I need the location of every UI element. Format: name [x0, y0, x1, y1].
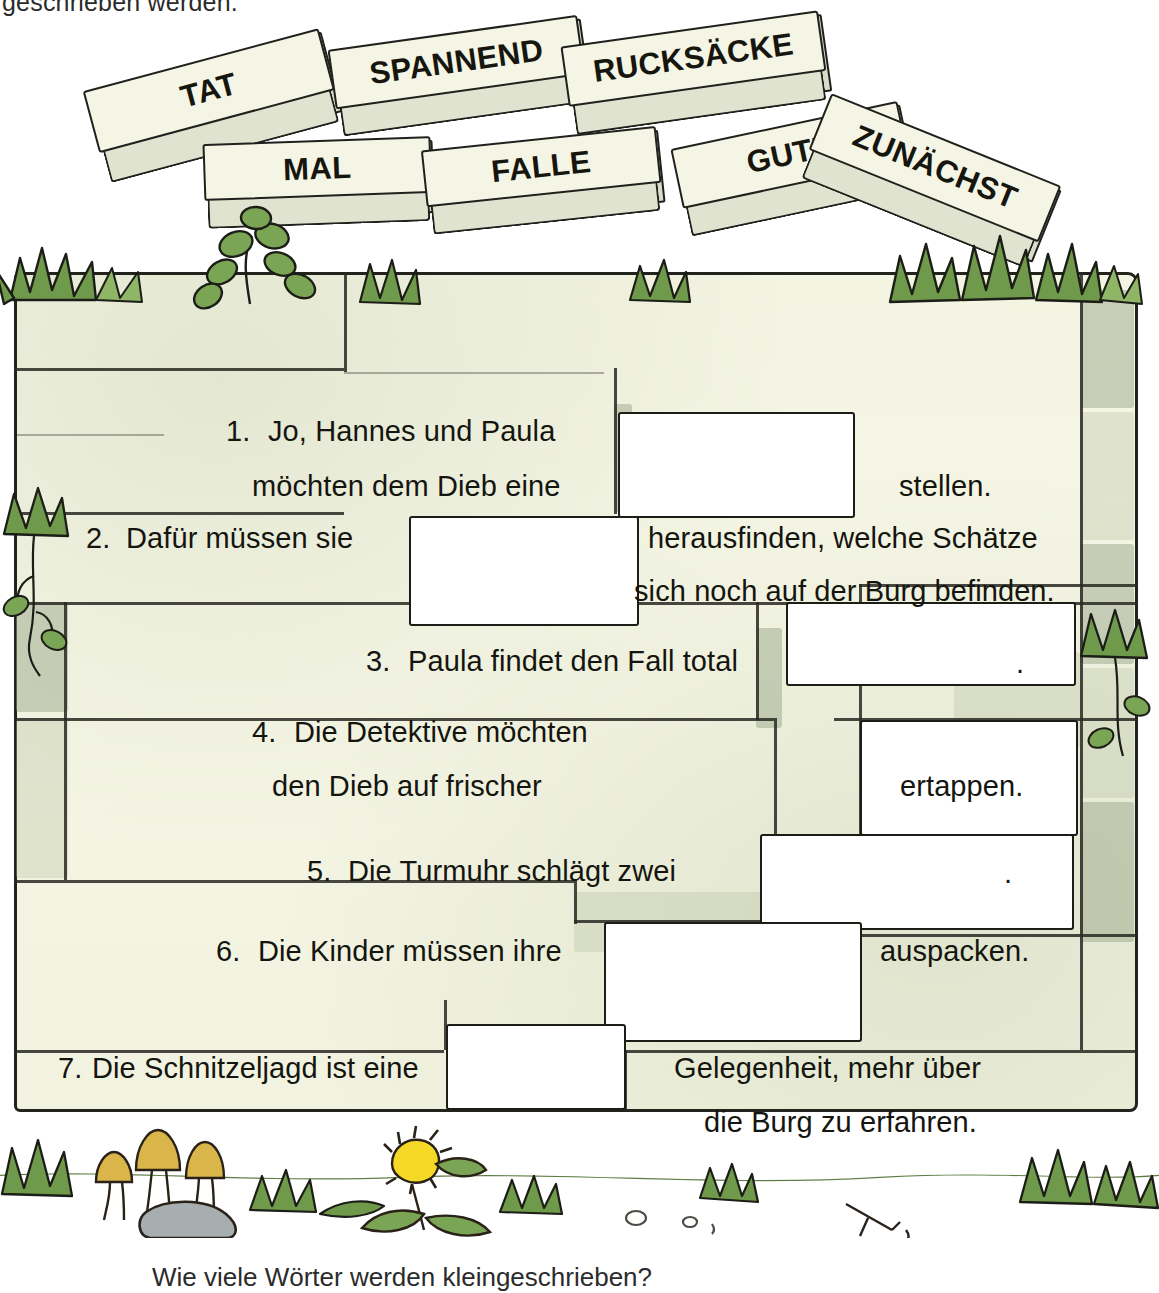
answer-gap-3[interactable]: [786, 602, 1076, 686]
wall-seam: [614, 368, 617, 514]
word-block-label: TAT: [177, 66, 241, 115]
right-side-ivy: [1075, 600, 1159, 780]
word-block-spannend[interactable]: SPANNEND: [328, 15, 591, 145]
answer-gap-7[interactable]: [446, 1024, 626, 1110]
sentence-7-number: 7.: [58, 1054, 82, 1083]
stone-shade: [1080, 802, 1134, 942]
sentence-5-line1-before: Die Turmuhr schlägt zwei: [348, 857, 676, 886]
sentence-7-line1-before: Die Schnitzeljagd ist eine: [92, 1054, 419, 1083]
word-block-label: MAL: [283, 149, 353, 187]
sentence-4-number: 4.: [252, 718, 276, 747]
answer-gap-1[interactable]: [618, 412, 855, 518]
sentence-3-number: 3.: [366, 647, 390, 676]
wall-seam: [756, 602, 759, 720]
sentence-2-line1-after: herausfinden, welche Schätze: [648, 524, 1038, 553]
left-side-ivy: [0, 480, 120, 680]
sentence-6-line1-before: Die Kinder müssen ihre: [258, 937, 562, 966]
castle-wall: 1. Jo, Hannes und Paula möchten dem Dieb…: [14, 272, 1138, 1112]
brick-top-face: MAL: [202, 136, 432, 201]
wall-seam: [14, 434, 164, 436]
answer-gap-2[interactable]: [409, 516, 639, 626]
wall-top-vegetation: [0, 200, 1159, 330]
sentence-3-line1-before: Paula findet den Fall total: [408, 647, 738, 676]
sentence-3-period: .: [1016, 647, 1024, 680]
sentence-4-line2-after: ertappen.: [900, 772, 1023, 801]
answer-gap-5[interactable]: [760, 834, 1074, 930]
word-block-label: SPANNEND: [367, 32, 545, 92]
sentence-4-line2-before: den Dieb auf frischer: [272, 772, 542, 801]
sentence-2-line2: sich noch auf der Burg befinden.: [634, 577, 1055, 606]
stone-shade: [16, 718, 68, 878]
sentence-1-line2-before: möchten dem Dieb eine: [252, 472, 560, 501]
bottom-question-text: Wie viele Wörter werden kleingeschrieben…: [152, 1262, 652, 1293]
sentence-1-line1: Jo, Hannes und Paula: [268, 417, 555, 446]
sentence-4-line1: Die Detektive möchten: [294, 718, 588, 747]
sentence-2-line1-before: Dafür müssen sie: [126, 524, 353, 553]
wall-seam: [14, 368, 344, 371]
wall-seam: [344, 372, 604, 374]
sentence-1-line2-after: stellen.: [899, 472, 992, 501]
sentence-6-line1-after: auspacken.: [880, 937, 1029, 966]
word-block-label: FALLE: [489, 143, 592, 189]
sentence-6-number: 6.: [216, 937, 240, 966]
sentence-5-number: 5.: [307, 857, 331, 886]
stone-shade: [756, 628, 782, 728]
answer-gap-6[interactable]: [604, 922, 862, 1042]
sentence-7-line1-after: Gelegenheit, mehr über: [674, 1054, 981, 1083]
stone-shade: [1080, 412, 1134, 540]
sentence-1-number: 1.: [226, 417, 250, 446]
sentence-5-period: .: [1004, 857, 1012, 890]
ground-vegetation: [0, 1118, 1159, 1238]
